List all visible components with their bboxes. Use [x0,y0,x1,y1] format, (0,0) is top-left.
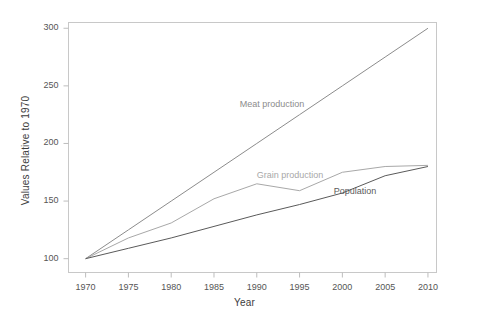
y-tick-label: 150 [25,195,59,205]
y-tick-marks [64,28,69,258]
x-tick-label: 1985 [194,282,234,292]
series-line [86,167,428,259]
y-tick-label: 100 [25,253,59,263]
series-label: Grain production [257,170,324,180]
x-axis-title: Year [0,297,489,308]
plot-area [0,0,489,317]
y-tick-label: 200 [25,137,59,147]
x-tick-label: 1995 [280,282,320,292]
x-tick-label: 1990 [237,282,277,292]
x-tick-label: 1970 [66,282,106,292]
x-tick-label: 1980 [151,282,191,292]
series-label: Meat production [240,99,305,109]
series-label: Population [334,186,377,196]
x-tick-label: 2000 [322,282,362,292]
x-tick-label: 1975 [108,282,148,292]
data-series-group [86,28,428,258]
y-tick-label: 250 [25,80,59,90]
line-chart: Values Relative to 1970 Year 10015020025… [0,0,489,317]
series-line [86,28,428,258]
x-tick-label: 2010 [408,282,448,292]
x-tick-label: 2005 [365,282,405,292]
y-tick-label: 300 [25,22,59,32]
x-tick-marks [86,273,428,278]
